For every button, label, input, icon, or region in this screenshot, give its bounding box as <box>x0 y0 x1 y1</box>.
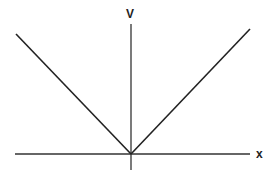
y-axis-label: V <box>126 7 134 21</box>
plot-canvas: V x <box>0 0 279 178</box>
v-shaped-plot: V x <box>0 0 279 178</box>
left-branch-line <box>16 34 131 154</box>
x-axis-label: x <box>256 147 263 161</box>
right-branch-line <box>131 29 250 154</box>
